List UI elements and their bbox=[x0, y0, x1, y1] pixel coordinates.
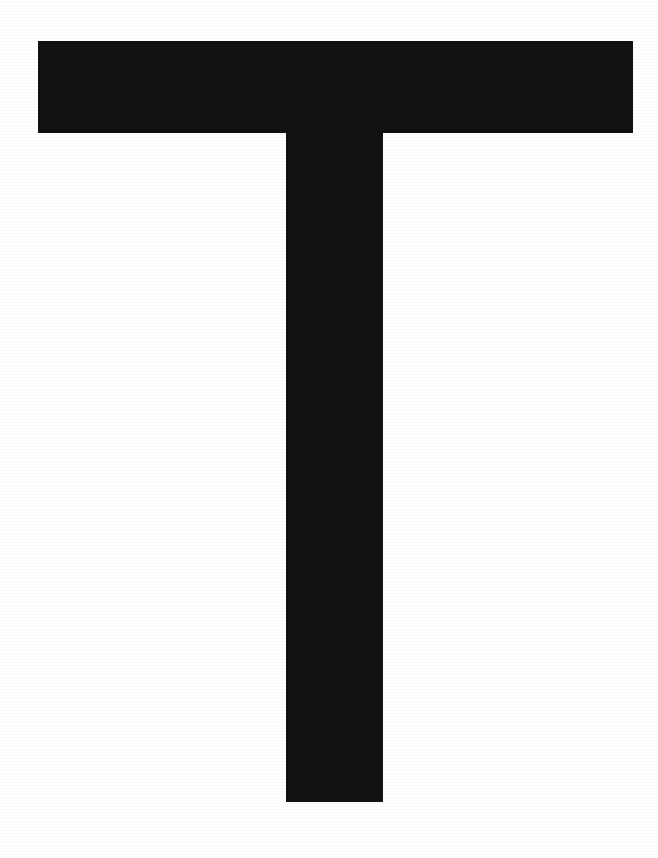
page-canvas: T Capital letter T rendered as a solid b… bbox=[0, 0, 658, 858]
letter-t-glyph bbox=[0, 0, 658, 858]
stem-rect bbox=[286, 133, 383, 802]
crossbar-rect bbox=[38, 41, 633, 133]
